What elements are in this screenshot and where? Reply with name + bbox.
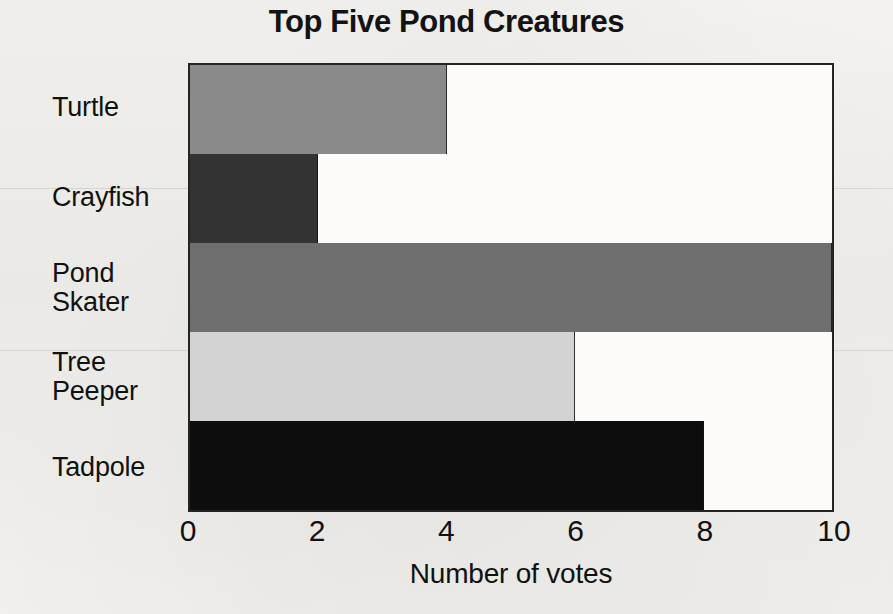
category-label-line: Skater — [52, 288, 182, 317]
category-label-line: Pond — [52, 259, 182, 288]
category-label-line: Turtle — [52, 93, 182, 122]
x-tick-8: 8 — [675, 514, 735, 548]
category-label-tree-peeper: TreePeeper — [52, 348, 182, 406]
category-label-pond-skater: PondSkater — [52, 259, 182, 317]
x-tick-2: 2 — [287, 514, 347, 548]
bar-track — [190, 421, 832, 510]
category-label-turtle: Turtle — [52, 93, 182, 122]
bar-pond-skater — [190, 243, 832, 332]
x-tick-0: 0 — [158, 514, 218, 548]
category-label-line: Crayfish — [52, 183, 182, 212]
category-label-tadpole: Tadpole — [52, 453, 182, 482]
plot-area — [188, 63, 834, 512]
bar-chart: Top Five Pond Creatures TurtleCrayfishPo… — [0, 0, 893, 614]
x-tick-4: 4 — [416, 514, 476, 548]
category-label-line: Tree — [52, 348, 182, 377]
bar-turtle — [190, 65, 447, 154]
bar-track — [190, 243, 832, 332]
bar-tadpole — [190, 421, 704, 510]
category-label-line: Peeper — [52, 377, 182, 406]
category-label-crayfish: Crayfish — [52, 183, 182, 212]
x-tick-6: 6 — [546, 514, 606, 548]
chart-title: Top Five Pond Creatures — [0, 4, 893, 40]
bar-crayfish — [190, 154, 318, 243]
bar-track — [190, 65, 832, 154]
x-axis-title: Number of votes — [188, 558, 834, 590]
bar-track — [190, 332, 832, 421]
x-tick-10: 10 — [804, 514, 864, 548]
bar-tree-peeper — [190, 332, 575, 421]
bar-track — [190, 154, 832, 243]
category-label-line: Tadpole — [52, 453, 182, 482]
